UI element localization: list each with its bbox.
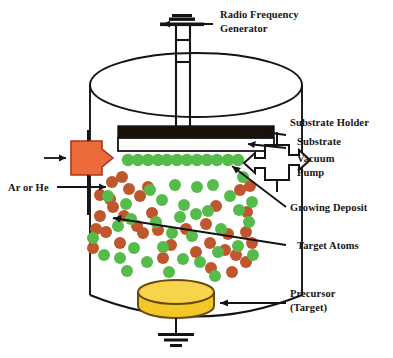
label-vacuum-pump-line2: Pump (297, 167, 324, 178)
deposit-atom-particle (215, 223, 227, 235)
deposit-atom-particle (209, 270, 221, 282)
ground-bar-2 (164, 339, 188, 342)
target-atom-particle (116, 171, 128, 183)
deposit-atom-particle (177, 253, 189, 265)
ground-bar-1 (158, 333, 194, 336)
deposit-atom-particle (125, 213, 137, 225)
target-atom-particle (107, 201, 119, 213)
deposit-atom-particle (166, 227, 178, 239)
deposit-atom-particle (247, 249, 259, 261)
label-rf-generator-line1: Radio Frequency (220, 9, 299, 20)
deposit-atom-particle (157, 241, 169, 253)
label-rf-generator-line2: Generator (220, 23, 268, 34)
target-atom-particle (226, 266, 238, 278)
ground-symbol (158, 318, 194, 347)
deposit-atom-particle (243, 216, 255, 228)
precursor-target-cylinder (138, 280, 214, 318)
deposit-atom-particle (156, 194, 168, 206)
deposit-atom-particle (114, 252, 126, 264)
deposit-atom-particle (194, 256, 206, 268)
deposit-particle (232, 154, 244, 166)
leader-rf-generator (163, 21, 213, 28)
deposit-atom-particle (246, 196, 258, 208)
label-growing-deposit: Growing Deposit (290, 202, 368, 213)
deposit-atom-particle (120, 198, 132, 210)
deposit-atom-particle (112, 220, 124, 232)
deposit-atom-particle (233, 204, 245, 216)
label-target-atoms: Target Atoms (297, 240, 359, 251)
deposit-atom-particle (212, 246, 224, 258)
gas-inflow-arrow (44, 155, 66, 162)
deposit-atom-particle (128, 242, 140, 254)
ground-bar-3 (170, 344, 182, 347)
rf-cap-mid (169, 18, 195, 21)
target-atom-particle (123, 183, 135, 195)
target-atom-particle (134, 190, 146, 202)
target-atom-particle (204, 237, 216, 249)
deposit-atom-particle (102, 190, 114, 202)
deposit-atom-particle (174, 211, 186, 223)
deposit-atom-particle (232, 240, 244, 252)
deposit-atom-particle (207, 179, 219, 191)
deposit-particle-row (122, 154, 244, 166)
deposit-atom-particle (87, 232, 99, 244)
deposit-atom-particle (144, 184, 156, 196)
target-atom-particle (100, 226, 112, 238)
target-atom-particle (157, 252, 169, 264)
deposit-atom-particle (224, 190, 236, 202)
target-atom-particle (137, 227, 149, 239)
deposit-particle (211, 154, 223, 166)
figure-canvas: Radio Frequency Generator Substrate Hold… (0, 0, 393, 358)
deposit-atom-particle (121, 265, 133, 277)
label-substrate-holder: Substrate Holder (290, 117, 369, 128)
rf-cap-top (172, 14, 192, 17)
target-atom-particle (114, 237, 126, 249)
deposit-atom-particle (191, 181, 203, 193)
target-atom-particle (200, 218, 212, 230)
leader-precursor (220, 300, 286, 307)
deposit-atom-particle (98, 249, 110, 261)
label-gas-inlet: Ar or He (8, 182, 49, 193)
deposit-atom-particle (141, 256, 153, 268)
deposit-atom-particle (169, 179, 181, 191)
target-atom-particle (94, 210, 106, 222)
target-top-face (138, 280, 214, 304)
deposit-atom-particle (178, 199, 190, 211)
label-vacuum-pump-line1: Vacuum (297, 153, 335, 164)
deposit-atom-particle (202, 205, 214, 217)
schematic-svg: Radio Frequency Generator Substrate Hold… (0, 0, 393, 358)
label-precursor-line2: (Target) (290, 302, 328, 314)
deposit-atom-particle (163, 266, 175, 278)
gas-inlet-block-shape (71, 141, 113, 175)
gas-inlet-arrow-block (71, 141, 113, 175)
chamber-top-ellipse (90, 53, 302, 117)
label-precursor-line1: Precursor (290, 288, 336, 299)
deposit-atom-particle (190, 208, 202, 220)
label-substrate: Substrate (297, 136, 341, 147)
